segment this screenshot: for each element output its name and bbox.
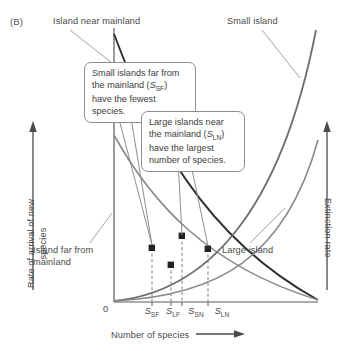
equilibrium-point-slf (168, 262, 174, 268)
panel-label: (B) (10, 16, 23, 28)
tick-label-ssf: SSF (145, 306, 160, 318)
figure-panel-b: (B) Island near mainland Small island La… (0, 0, 346, 351)
label-island-near-mainland: Island near mainland (53, 16, 140, 28)
callout-large-near: Large islands near the mainland (SLN) ha… (141, 111, 245, 172)
plot-canvas (0, 0, 346, 351)
tick-label-sln: SLN (215, 306, 230, 318)
callout-large-near-subscript: LN (213, 133, 221, 140)
label-small-island: Small island (227, 16, 278, 28)
callout-small-far-subscript: SF (156, 84, 164, 91)
equilibrium-point-sln (205, 246, 211, 252)
y-axis-label: Rate of arrival of new species (26, 184, 49, 304)
bottom-axis-arrow (196, 330, 245, 338)
tick-subscript-slf: LF (172, 311, 180, 318)
tick-subscript-ssn: SN (194, 311, 203, 318)
tick-subscript-ssf: SF (151, 311, 159, 318)
x-axis-tick-labels: SSF SLF SSN SLN (0, 306, 346, 320)
x-axis-label: Number of species (111, 330, 189, 342)
label-large-island: Large island (222, 245, 273, 257)
tick-label-slf: SLF (166, 306, 180, 318)
equilibrium-point-ssf (149, 245, 155, 251)
tick-subscript-sln: LN (221, 311, 229, 318)
tick-label-ssn: SSN (188, 306, 203, 318)
equilibrium-points (149, 233, 211, 268)
y2-axis-label: Extinction rate (321, 173, 333, 283)
